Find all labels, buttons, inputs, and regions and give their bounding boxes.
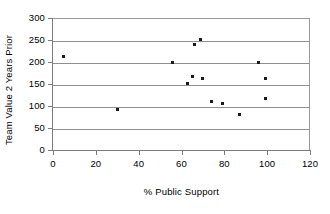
x-tick-120 (310, 150, 311, 155)
x-tick-100 (267, 150, 268, 155)
x-tick-label-text: 80 (204, 158, 244, 169)
y-tick-300 (48, 18, 53, 19)
x-tick-label-text: 40 (119, 158, 159, 169)
y-tick-250 (48, 40, 53, 41)
y-tick-label-text: 50 (1, 123, 45, 133)
x-tick-label-80: 80 (204, 158, 244, 169)
data-point (186, 82, 189, 85)
scatter-chart: Team Value 2 Years Prior 050100150200250… (0, 0, 330, 214)
x-tick-label-text: 60 (162, 158, 202, 169)
gridline-y-50 (53, 129, 309, 130)
data-point (116, 108, 119, 111)
x-tick-80 (224, 150, 225, 155)
plot-area (53, 18, 310, 150)
x-tick-label-120: 120 (290, 158, 330, 169)
data-point (199, 38, 202, 41)
x-tick-label-60: 60 (162, 158, 202, 169)
y-tick-label-text: 150 (1, 79, 45, 89)
x-tick-60 (182, 150, 183, 155)
y-tick-100 (48, 106, 53, 107)
y-tick-label-0: 0 (0, 145, 45, 155)
x-tick-label-0: 0 (33, 158, 73, 169)
gridline-y-150 (53, 85, 309, 86)
y-tick-label-300: 300 (0, 13, 45, 23)
gridline-y-100 (53, 107, 309, 108)
data-point (62, 55, 65, 58)
x-tick-label-20: 20 (76, 158, 116, 169)
x-axis-title: % Public Support (53, 186, 310, 197)
y-tick-label-text: 250 (1, 35, 45, 45)
x-tick-0 (53, 150, 54, 155)
y-tick-50 (48, 128, 53, 129)
data-point (191, 75, 194, 78)
x-tick-label-text: 0 (33, 158, 73, 169)
y-tick-label-250: 250 (0, 35, 45, 45)
x-tick-label-text: 120 (290, 158, 330, 169)
gridline-y-200 (53, 63, 309, 64)
gridline-y-250 (53, 41, 309, 42)
data-point (171, 61, 174, 64)
y-tick-label-50: 50 (0, 123, 45, 133)
y-tick-label-text: 300 (1, 13, 45, 23)
data-point (221, 102, 224, 105)
y-tick-200 (48, 62, 53, 63)
x-tick-20 (96, 150, 97, 155)
x-tick-label-text: 20 (76, 158, 116, 169)
y-tick-150 (48, 84, 53, 85)
data-point (264, 97, 267, 100)
data-point (264, 77, 267, 80)
x-tick-label-100: 100 (247, 158, 287, 169)
y-tick-label-text: 200 (1, 57, 45, 67)
y-tick-label-100: 100 (0, 101, 45, 111)
y-tick-label-150: 150 (0, 79, 45, 89)
y-tick-label-text: 100 (1, 101, 45, 111)
x-tick-40 (139, 150, 140, 155)
data-point (193, 43, 196, 46)
data-point (238, 113, 241, 116)
x-tick-label-text: 100 (247, 158, 287, 169)
data-point (257, 61, 260, 64)
y-tick-label-text: 0 (1, 145, 45, 155)
data-point (201, 77, 204, 80)
x-tick-label-40: 40 (119, 158, 159, 169)
data-point (210, 100, 213, 103)
y-tick-label-200: 200 (0, 57, 45, 67)
